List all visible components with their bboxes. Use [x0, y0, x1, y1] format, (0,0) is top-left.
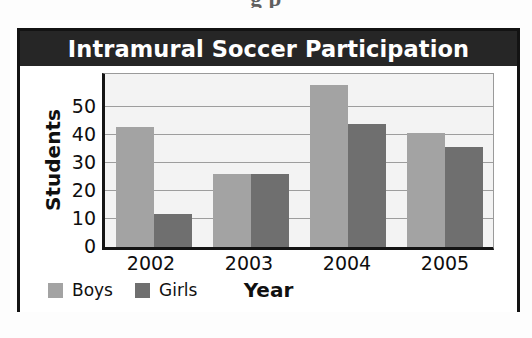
- legend-item-girls: Girls: [135, 280, 197, 300]
- y-axis-tick: 10: [56, 209, 96, 228]
- y-axis-tick: 50: [56, 97, 96, 116]
- y-axis-tick: 40: [56, 125, 96, 144]
- x-axis-tick-2003: 2003: [200, 252, 298, 280]
- legend-label: Girls: [159, 280, 197, 300]
- y-axis-tick: 20: [56, 181, 96, 200]
- x-axis-tick-2002: 2002: [102, 252, 200, 280]
- y-axis-tick: 0: [56, 237, 96, 256]
- bar-group-2005: [396, 74, 493, 247]
- legend-label: Boys: [72, 280, 113, 300]
- bar-girls-2002: [154, 214, 192, 247]
- bar-group-2002: [105, 74, 202, 247]
- plot-area: [102, 73, 494, 250]
- chart-body: Students 01020304050 2002200320042005 Bo…: [20, 66, 517, 312]
- bar-girls-2004: [348, 124, 386, 247]
- bar-group-2003: [202, 74, 299, 247]
- bar-group-2004: [299, 74, 396, 247]
- legend-swatch-icon-girls: [135, 283, 150, 298]
- bars-layer: [105, 74, 493, 247]
- chart-card: Intramural Soccer Participation Students…: [17, 28, 520, 312]
- bar-girls-2005: [445, 147, 483, 247]
- page-title: Intramural Soccer Participation: [68, 36, 469, 62]
- x-axis-tick-labels: 2002200320042005: [102, 252, 494, 280]
- chart-legend: BoysGirls: [48, 280, 197, 300]
- legend-swatch-icon-boys: [48, 283, 63, 298]
- x-axis-tick-2005: 2005: [396, 252, 494, 280]
- bar-boys-2002: [116, 127, 154, 247]
- page-background-mask: [0, 8, 532, 26]
- x-axis-tick-2004: 2004: [298, 252, 396, 280]
- bar-boys-2004: [310, 85, 348, 247]
- legend-item-boys: Boys: [48, 280, 113, 300]
- chart-title-bar: Intramural Soccer Participation: [20, 31, 517, 66]
- y-axis-tick: 30: [56, 153, 96, 172]
- bar-boys-2003: [213, 174, 251, 247]
- cut-off-text-above-figure: g p: [0, 0, 532, 8]
- bar-girls-2003: [251, 174, 289, 247]
- bar-boys-2005: [407, 133, 445, 247]
- y-axis-tick-labels: 01020304050: [56, 73, 96, 246]
